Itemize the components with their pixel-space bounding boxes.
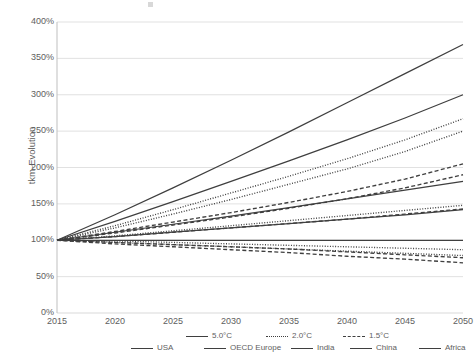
x-axis-tick-label: 2035 bbox=[266, 316, 312, 326]
legend-label: 2.0°C bbox=[292, 332, 312, 340]
y-axis-tick-label: 150% bbox=[2, 199, 54, 208]
y-axis-tick-label: 300% bbox=[2, 90, 54, 99]
legend-label: 1.5°C bbox=[369, 332, 389, 340]
legend-line-swatch bbox=[266, 333, 288, 340]
legend-row-regions: USAOECD EuropeIndiaChinaAfrica bbox=[0, 341, 474, 355]
y-axis-tick-label: 200% bbox=[2, 163, 54, 172]
series-line bbox=[57, 205, 463, 240]
stray-artifact bbox=[148, 2, 153, 7]
y-axis-tick-label: 50% bbox=[2, 272, 54, 281]
legend-label: China bbox=[376, 344, 397, 352]
data-series-lines bbox=[57, 45, 463, 263]
legend-line-swatch bbox=[343, 333, 365, 340]
legend-item-region-usa[interactable]: USA bbox=[131, 341, 173, 355]
legend-label: Africa bbox=[445, 344, 465, 352]
legend-line-swatch bbox=[186, 333, 208, 340]
chart-svg bbox=[57, 22, 463, 313]
x-axis-tick-labels: 20152020202520302035204020452050 bbox=[0, 316, 474, 330]
x-axis-tick-label: 2040 bbox=[324, 316, 370, 326]
x-axis-tick-label: 2025 bbox=[150, 316, 196, 326]
legend-label: 5.0°C bbox=[212, 332, 232, 340]
x-axis-tick-label: 2015 bbox=[34, 316, 80, 326]
chart-container: tkm-Evolution 400%350%300%250%200%150%10… bbox=[0, 0, 474, 363]
legend-item-region-india[interactable]: India bbox=[291, 341, 334, 355]
y-axis-tick-label: 250% bbox=[2, 126, 54, 135]
legend-label: USA bbox=[157, 344, 173, 352]
x-axis-tick-label: 2045 bbox=[382, 316, 428, 326]
x-axis-tick-label: 2030 bbox=[208, 316, 254, 326]
series-line bbox=[57, 131, 463, 240]
series-line bbox=[57, 240, 463, 257]
legend-item-region-oecd-europe[interactable]: OECD Europe bbox=[204, 341, 281, 355]
chart-legend: 5.0°C2.0°C1.5°C USAOECD EuropeIndiaChina… bbox=[0, 329, 474, 361]
legend-line-swatch bbox=[131, 345, 153, 352]
series-line bbox=[57, 164, 463, 240]
series-line bbox=[57, 119, 463, 240]
legend-line-swatch bbox=[204, 345, 226, 352]
x-axis-tick-label: 2020 bbox=[92, 316, 138, 326]
series-line bbox=[57, 240, 463, 263]
x-axis-tick-label: 2050 bbox=[440, 316, 474, 326]
y-axis-tick-label: 100% bbox=[2, 235, 54, 244]
plot-area bbox=[57, 22, 463, 313]
legend-label: OECD Europe bbox=[230, 344, 281, 352]
y-axis-tick-label: 350% bbox=[2, 53, 54, 62]
legend-item-region-africa[interactable]: Africa bbox=[419, 341, 465, 355]
legend-line-swatch bbox=[419, 345, 441, 352]
y-axis-tick-label: 400% bbox=[2, 17, 54, 26]
legend-line-swatch bbox=[291, 345, 313, 352]
legend-item-region-china[interactable]: China bbox=[350, 341, 397, 355]
gridlines bbox=[57, 22, 463, 313]
legend-line-swatch bbox=[350, 345, 372, 352]
y-axis-tick-labels: 400%350%300%250%200%150%100%50%0% bbox=[0, 0, 54, 363]
legend-label: India bbox=[317, 344, 334, 352]
